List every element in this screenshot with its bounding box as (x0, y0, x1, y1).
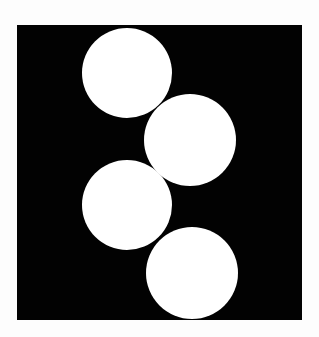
white-circle-4 (146, 227, 238, 319)
black-square-with-circles (17, 25, 302, 320)
white-circle-1 (82, 28, 172, 118)
white-circle-3 (82, 160, 172, 250)
figure (17, 25, 302, 320)
